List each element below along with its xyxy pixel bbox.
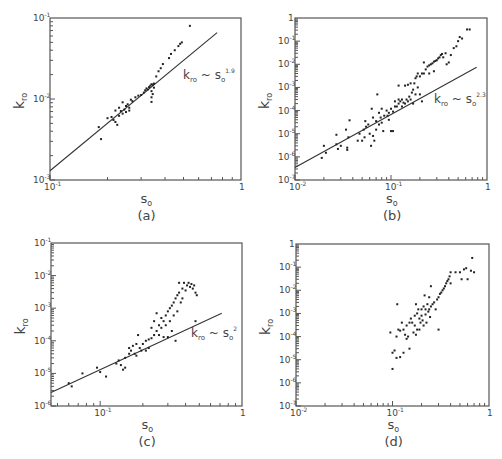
y-tick-label: 10-4 [34,334,52,346]
scatter-points [68,282,198,388]
x-axis-label: so [141,191,153,208]
y-tick-label: 10-1 [279,260,297,272]
power-law-annotation: kro ~ so1.9 [183,67,235,84]
y-tick-label: 10-6 [278,150,296,162]
figure-canvas: 10-1110-310-210-1kro ~ so1.9sokro(a)10-2… [0,0,502,459]
y-tick-label: 10-3 [34,301,52,313]
axis-ticks [50,22,232,180]
x-tick-label: 10-1 [94,406,112,418]
x-tick-label: 1 [485,182,491,192]
y-tick-label: 10-1 [278,34,296,46]
y-tick-label: 10-5 [279,353,297,365]
x-tick-label: 1 [240,408,246,418]
x-tick-label: 10-1 [44,180,62,192]
y-tick-label: 10-3 [279,306,297,318]
power-law-fit-line [50,33,217,171]
y-tick-label: 10-5 [34,366,52,378]
plot-frame [296,244,489,406]
axis-ticks [296,245,485,406]
chart-panel-a: 10-1110-310-210-1kro ~ so1.9sokro(a) [11,11,245,223]
y-tick-label: 10-1 [34,236,52,248]
panel-label: (d) [385,434,403,449]
power-law-annotation: kro ~ so2 [191,325,237,342]
x-tick-label: 1 [487,408,493,418]
y-axis-label: kro [256,93,274,109]
y-axis-label: kro [12,318,30,334]
plot-frame [50,18,241,180]
scatter-points [98,25,191,140]
y-tick-label: 1 [288,13,294,23]
y-tick-label: 10-6 [34,399,52,411]
y-tick-label: 10-2 [34,269,52,281]
y-tick-label: 10-3 [278,80,296,92]
power-law-fit-line [295,67,477,167]
y-tick-label: 10-1 [33,11,51,23]
x-axis-label: so [388,417,400,434]
y-tick-label: 10-4 [279,330,297,342]
x-axis-label: so [142,417,154,434]
y-tick-label: 10-2 [33,92,51,104]
y-tick-label: 10-2 [279,283,297,295]
y-tick-label: 10-2 [278,57,296,69]
panel-label: (a) [138,208,156,223]
chart-panel-b: 10-210-1110-710-610-510-410-310-210-11kr… [256,13,491,223]
x-tick-label: 1 [239,182,245,192]
power-law-annotation: kro ~ so2.3 [434,91,486,108]
y-axis-label: kro [11,93,29,109]
plot-frame [51,243,242,406]
x-axis-label: so [386,191,398,208]
panel-label: (c) [139,434,156,449]
x-tick-label: 10-2 [289,180,307,192]
y-tick-label: 10-4 [278,104,296,116]
y-tick-label: 10-6 [279,376,297,388]
x-tick-label: 10-2 [290,406,308,418]
chart-panel-c: 10-1110-610-510-410-310-210-1kro ~ so2so… [12,236,246,449]
scatter-points [389,257,475,370]
chart-panel-d: 10-210-1110-710-610-510-410-310-210-11so… [257,239,493,449]
y-axis-label: kro [257,319,275,335]
y-tick-label: 10-5 [278,127,296,139]
y-tick-label: 1 [289,239,295,249]
panel-label: (b) [383,208,401,223]
